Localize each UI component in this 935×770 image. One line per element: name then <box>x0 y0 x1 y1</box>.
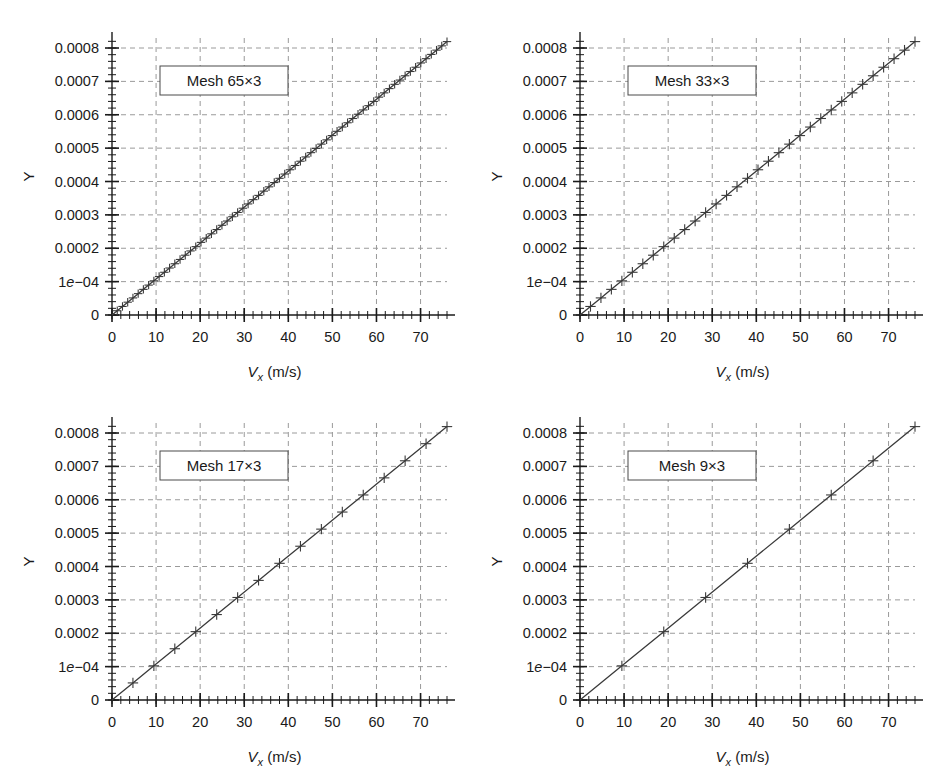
x-tick-label: 60 <box>836 329 852 345</box>
y-tick-label: 0.0004 <box>55 559 99 575</box>
y-tick-label: 0 <box>559 307 567 323</box>
plot-mesh-65x3: 01e−040.00020.00030.00040.00050.00060.00… <box>0 0 467 385</box>
y-tick-label: 1e−04 <box>526 659 567 675</box>
x-tick-label: 20 <box>660 714 676 730</box>
y-tick-label: 0.0004 <box>523 174 567 190</box>
y-tick-label: 0.0007 <box>523 73 567 89</box>
x-tick-label: 40 <box>280 714 296 730</box>
x-tick-label: 60 <box>836 714 852 730</box>
x-tick-label: 20 <box>192 329 208 345</box>
x-tick-label: 0 <box>576 329 584 345</box>
x-tick-label: 40 <box>748 329 764 345</box>
x-tick-label: 70 <box>412 714 428 730</box>
x-tick-label: 40 <box>280 329 296 345</box>
x-tick-label: 30 <box>236 329 252 345</box>
x-tick-label: 10 <box>616 329 632 345</box>
panel-mesh-33x3: 01e−040.00020.00030.00040.00050.00060.00… <box>468 0 935 385</box>
y-axis-title: Y <box>488 171 505 181</box>
x-tick-label: 50 <box>324 714 340 730</box>
legend-label: Mesh 65×3 <box>187 72 262 89</box>
x-tick-label: 20 <box>192 714 208 730</box>
plot-mesh-9x3: 01e−040.00020.00030.00040.00050.00060.00… <box>468 385 935 770</box>
x-axis-title: Vx (m/s) <box>716 363 770 383</box>
y-tick-label: 0.0005 <box>55 140 99 156</box>
x-tick-label: 20 <box>660 329 676 345</box>
y-tick-label: 0.0005 <box>55 525 99 541</box>
x-tick-label: 70 <box>412 329 428 345</box>
x-tick-labels: 010203040506070 <box>108 329 429 345</box>
y-tick-label: 1e−04 <box>58 659 99 675</box>
legend-box: Mesh 33×3 <box>628 66 756 95</box>
x-tick-label: 70 <box>880 714 896 730</box>
x-tick-label: 30 <box>236 714 252 730</box>
x-tick-label: 40 <box>748 714 764 730</box>
x-tick-labels: 010203040506070 <box>576 714 897 730</box>
y-tick-label: 0.0003 <box>523 592 567 608</box>
y-tick-labels: 01e−040.00020.00030.00040.00050.00060.00… <box>523 425 567 708</box>
x-tick-labels: 010203040506070 <box>108 714 429 730</box>
y-tick-label: 0.0008 <box>523 40 567 56</box>
x-tick-label: 50 <box>792 714 808 730</box>
y-axis-title: Y <box>20 171 37 181</box>
legend-box: Mesh 65×3 <box>160 66 288 95</box>
x-tick-label: 10 <box>616 714 632 730</box>
x-axis-title: Vx (m/s) <box>248 748 302 768</box>
y-tick-label: 0.0006 <box>55 107 99 123</box>
y-tick-label: 0.0003 <box>55 207 99 223</box>
x-tick-label: 0 <box>576 714 584 730</box>
y-tick-labels: 01e−040.00020.00030.00040.00050.00060.00… <box>55 425 99 708</box>
plot-mesh-17x3: 01e−040.00020.00030.00040.00050.00060.00… <box>0 385 467 770</box>
legend-box: Mesh 17×3 <box>160 451 288 480</box>
y-tick-label: 0.0002 <box>55 240 99 256</box>
y-tick-label: 0.0006 <box>523 492 567 508</box>
four-panel-figure: 01e−040.00020.00030.00040.00050.00060.00… <box>0 0 935 770</box>
y-tick-label: 1e−04 <box>58 274 99 290</box>
legend-label: Mesh 33×3 <box>655 72 730 89</box>
y-tick-label: 0.0003 <box>55 592 99 608</box>
x-tick-label: 10 <box>148 329 164 345</box>
y-tick-label: 0.0005 <box>523 140 567 156</box>
panel-mesh-65x3: 01e−040.00020.00030.00040.00050.00060.00… <box>0 0 467 385</box>
y-tick-label: 0.0008 <box>55 425 99 441</box>
y-tick-label: 0 <box>91 307 99 323</box>
y-axis-title: Y <box>20 556 37 566</box>
panel-mesh-9x3: 01e−040.00020.00030.00040.00050.00060.00… <box>468 385 935 770</box>
x-axis-title: Vx (m/s) <box>716 748 770 768</box>
x-tick-labels: 010203040506070 <box>576 329 897 345</box>
x-tick-label: 10 <box>148 714 164 730</box>
legend-label: Mesh 9×3 <box>659 457 725 474</box>
y-tick-label: 0.0006 <box>523 107 567 123</box>
panel-mesh-17x3: 01e−040.00020.00030.00040.00050.00060.00… <box>0 385 467 770</box>
x-tick-label: 60 <box>368 329 384 345</box>
y-tick-label: 0.0007 <box>55 73 99 89</box>
y-axis-title: Y <box>488 556 505 566</box>
y-tick-label: 0.0004 <box>55 174 99 190</box>
y-tick-label: 0.0007 <box>55 458 99 474</box>
x-tick-label: 50 <box>324 329 340 345</box>
x-tick-label: 60 <box>368 714 384 730</box>
y-tick-labels: 01e−040.00020.00030.00040.00050.00060.00… <box>55 40 99 323</box>
x-tick-label: 30 <box>704 714 720 730</box>
y-tick-label: 0.0002 <box>523 625 567 641</box>
legend-box: Mesh 9×3 <box>628 451 756 480</box>
y-tick-label: 0.0008 <box>55 40 99 56</box>
y-tick-label: 0.0006 <box>55 492 99 508</box>
legend-label: Mesh 17×3 <box>187 457 262 474</box>
y-tick-label: 0.0003 <box>523 207 567 223</box>
y-tick-label: 0 <box>91 692 99 708</box>
y-tick-label: 0.0007 <box>523 458 567 474</box>
y-tick-labels: 01e−040.00020.00030.00040.00050.00060.00… <box>523 40 567 323</box>
x-tick-label: 0 <box>108 714 116 730</box>
y-tick-label: 0.0004 <box>523 559 567 575</box>
y-tick-label: 0.0002 <box>55 625 99 641</box>
x-tick-label: 70 <box>880 329 896 345</box>
plot-mesh-33x3: 01e−040.00020.00030.00040.00050.00060.00… <box>468 0 935 385</box>
y-tick-label: 0.0002 <box>523 240 567 256</box>
y-tick-label: 0.0008 <box>523 425 567 441</box>
y-tick-label: 0.0005 <box>523 525 567 541</box>
x-tick-label: 0 <box>108 329 116 345</box>
y-tick-label: 1e−04 <box>526 274 567 290</box>
x-tick-label: 50 <box>792 329 808 345</box>
x-tick-label: 30 <box>704 329 720 345</box>
x-axis-title: Vx (m/s) <box>248 363 302 383</box>
